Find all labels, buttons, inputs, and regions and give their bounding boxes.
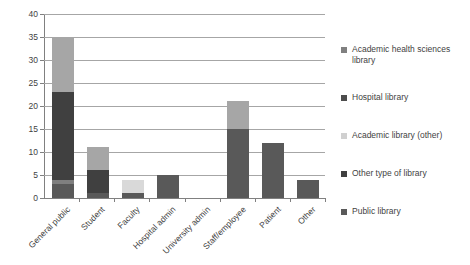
legend-label: Academic library (other) [352, 130, 442, 141]
y-tick-mark [40, 83, 44, 84]
y-tick-label: 40 [29, 10, 38, 19]
bar-stack[interactable] [227, 101, 249, 198]
y-tick-mark [40, 37, 44, 38]
y-tick-mark [40, 152, 44, 153]
bar-stack[interactable] [297, 180, 319, 198]
bar-stack[interactable] [87, 147, 109, 198]
x-axis-labels: General publicStudentFacultyHospital adm… [44, 201, 325, 261]
legend-label: Hospital library [352, 92, 408, 103]
y-tick-label: 5 [33, 171, 38, 180]
legend-swatch-icon [341, 171, 347, 177]
x-tick-label: Other [296, 205, 317, 226]
legend-item[interactable]: Public library [341, 206, 467, 217]
bar-segment[interactable] [122, 193, 144, 198]
bar-slot [115, 14, 150, 198]
bar-slot [45, 14, 80, 198]
legend-label: Public library [352, 206, 401, 217]
legend-label: Other type of library [352, 168, 427, 179]
legend-item[interactable]: Other type of library [341, 168, 467, 179]
legend-swatch-icon [341, 133, 347, 139]
bar-slot [221, 14, 256, 198]
plot-area: 0510152025303540 [44, 14, 325, 199]
y-tick-mark [40, 175, 44, 176]
bar-slot [256, 14, 291, 198]
y-tick-label: 20 [29, 102, 38, 111]
y-tick-label: 15 [29, 125, 38, 134]
legend-swatch-icon [341, 47, 347, 53]
x-tick-label: Student [80, 205, 107, 232]
y-tick-label: 35 [29, 33, 38, 42]
legend-item[interactable]: Academic library (other) [341, 130, 467, 141]
bar-slot [150, 14, 185, 198]
y-tick-mark [40, 106, 44, 107]
bar-segment[interactable] [87, 170, 109, 193]
x-tick-mark [325, 198, 326, 202]
bar-slot [291, 14, 326, 198]
legend-swatch-icon [341, 95, 347, 101]
bar-segment[interactable] [297, 180, 319, 198]
bar-segment[interactable] [122, 180, 144, 194]
legend-swatch-icon [341, 209, 347, 215]
y-tick-mark [40, 129, 44, 130]
bar-segment[interactable] [262, 143, 284, 198]
bar-stack[interactable] [122, 180, 144, 198]
bar-segment[interactable] [157, 175, 179, 198]
bar-segment[interactable] [227, 129, 249, 198]
y-tick-mark [40, 60, 44, 61]
bar-stack[interactable] [157, 175, 179, 198]
bar-segment[interactable] [87, 193, 109, 198]
y-tick-mark [40, 198, 44, 199]
bars-group [45, 14, 325, 198]
legend-label: Academic health sciences library [352, 44, 467, 66]
chart-root: 0510152025303540 General publicStudentFa… [0, 0, 470, 265]
y-tick-label: 25 [29, 79, 38, 88]
bar-segment[interactable] [227, 101, 249, 129]
y-tick-mark [40, 14, 44, 15]
x-tick-label: General public [27, 205, 72, 250]
bar-stack[interactable] [262, 143, 284, 198]
bar-segment[interactable] [52, 92, 74, 179]
x-tick-label: Faculty [116, 205, 142, 231]
bar-segment[interactable] [52, 37, 74, 92]
bar-segment[interactable] [52, 184, 74, 198]
x-tick-label: Patient [258, 205, 283, 230]
bar-slot [80, 14, 115, 198]
bar-stack[interactable] [52, 37, 74, 198]
y-tick-label: 30 [29, 56, 38, 65]
y-tick-label: 10 [29, 148, 38, 157]
bar-slot [186, 14, 221, 198]
legend-item[interactable]: Academic health sciences library [341, 44, 467, 66]
legend-item[interactable]: Hospital library [341, 92, 467, 103]
bar-segment[interactable] [87, 147, 109, 170]
y-tick-label: 0 [33, 194, 38, 203]
